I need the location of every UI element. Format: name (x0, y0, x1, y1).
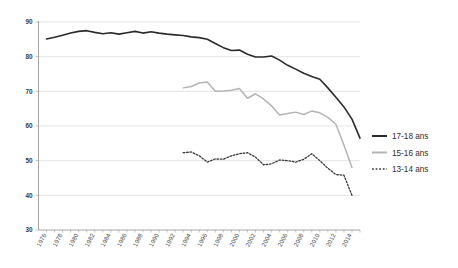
x-tick-label-1988: 1988 (131, 232, 144, 248)
legend-label-13-14-ans: 13-14 ans (392, 165, 428, 174)
y-tick-label-80: 80 (25, 53, 33, 60)
x-tick-label-1976: 1976 (35, 232, 48, 248)
y-tick-label-70: 70 (25, 88, 33, 95)
y-tick-label-90: 90 (25, 18, 33, 25)
x-tick-label-1980: 1980 (67, 232, 80, 248)
y-tick-label-40: 40 (25, 192, 33, 199)
x-tick-label-1992: 1992 (163, 232, 176, 248)
x-axis: 1976197819801982198419861988199019921994… (35, 230, 360, 248)
chart-legend: 17-18 ans15-16 ans13-14 ans (372, 132, 428, 174)
x-tick-label-2012: 2012 (324, 232, 337, 248)
x-tick-label-2000: 2000 (228, 232, 241, 248)
x-tick-label-1998: 1998 (212, 232, 225, 248)
x-tick-label-2004: 2004 (260, 232, 273, 248)
x-tick-label-2002: 2002 (244, 232, 257, 248)
y-axis: 30405060708090 (25, 18, 38, 233)
legend-label-17-18-ans: 17-18 ans (392, 132, 428, 141)
x-tick-label-1996: 1996 (196, 232, 209, 248)
x-tick-label-1978: 1978 (51, 232, 64, 248)
series-line-15-16-ans (183, 82, 352, 168)
y-tick-label-50: 50 (25, 157, 33, 164)
x-tick-label-1990: 1990 (147, 232, 160, 248)
x-tick-label-1982: 1982 (83, 232, 96, 248)
series-line-13-14-ans (183, 152, 352, 195)
y-tick-label-60: 60 (25, 122, 33, 129)
x-tick-label-2006: 2006 (276, 232, 289, 248)
legend-label-15-16-ans: 15-16 ans (392, 149, 428, 158)
x-tick-label-2010: 2010 (308, 232, 321, 248)
chart-canvas: 30405060708090 1976197819801982198419861… (0, 0, 458, 268)
x-tick-label-1984: 1984 (99, 232, 112, 248)
grid-lines (39, 22, 361, 195)
x-tick-label-1994: 1994 (179, 232, 192, 248)
y-tick-label-30: 30 (25, 226, 33, 233)
series-line-17-18-ans (47, 31, 360, 138)
x-tick-label-2008: 2008 (292, 232, 305, 248)
x-tick-label-1986: 1986 (115, 232, 128, 248)
line-chart-figure: 30405060708090 1976197819801982198419861… (0, 0, 458, 268)
x-tick-label-2014: 2014 (340, 232, 353, 248)
series-lines (47, 31, 360, 196)
